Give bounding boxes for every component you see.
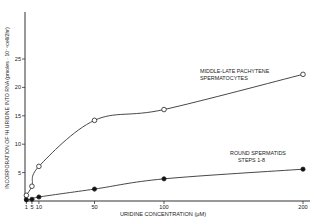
chart: 510152025 151050100200 INCORPORATION OF … — [0, 0, 314, 224]
svg-text:50: 50 — [91, 204, 97, 210]
series-spermatids-markers — [24, 167, 305, 202]
svg-text:15: 15 — [15, 113, 21, 119]
series-pachytene-label-line2: SPERMATOCYTES — [200, 75, 248, 81]
x-ticks: 151050100200 — [25, 201, 308, 210]
y-axis-label: INCORPORATION OF ³H URIDINE INTO RNA (pm… — [4, 27, 10, 189]
series-spermatids-label-line2: STEPS 1-8 — [238, 157, 265, 163]
svg-text:1: 1 — [25, 204, 28, 210]
svg-text:25: 25 — [15, 56, 21, 62]
svg-text:5: 5 — [30, 204, 33, 210]
svg-text:100: 100 — [159, 204, 168, 210]
svg-text:5: 5 — [18, 170, 21, 176]
x-axis-label: URIDINE CONCENTRATION (μM) — [120, 211, 206, 217]
svg-text:20: 20 — [15, 84, 21, 90]
svg-text:10: 10 — [15, 141, 21, 147]
series-pachytene-label-line1: MIDDLE-LATE PACHYTENE — [200, 68, 270, 74]
svg-text:200: 200 — [298, 204, 307, 210]
series-spermatids-label-line1: ROUND SPERMATIDS — [230, 150, 286, 156]
series-spermatids-curve — [25, 169, 303, 201]
svg-text:10: 10 — [36, 204, 42, 210]
series-pachytene-curve — [25, 74, 303, 201]
y-ticks: 510152025 — [15, 56, 25, 176]
